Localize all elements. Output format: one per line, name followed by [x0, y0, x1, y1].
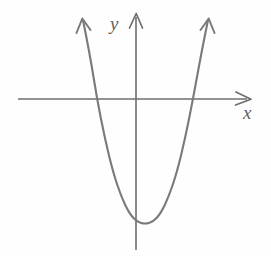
parabola-curve — [83, 20, 208, 224]
x-axis-label: x — [243, 103, 251, 122]
y-axis-label: y — [110, 14, 118, 33]
parabola-graph-figure: y x — [0, 0, 271, 256]
graph-canvas — [0, 0, 271, 256]
